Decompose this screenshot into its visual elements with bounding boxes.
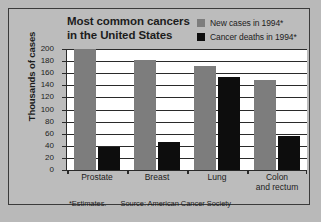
bar-group-prostate: Prostate xyxy=(67,49,127,170)
y-axis-tick-180: 180 xyxy=(41,57,54,65)
chart-title: Most common cancers in the United States xyxy=(67,15,207,42)
chart-header: Most common cancers in the United States… xyxy=(19,15,301,49)
y-axis-tick-160: 160 xyxy=(41,69,54,77)
chart-legend: New cases in 1994* Cancer deaths in 1994… xyxy=(197,16,317,44)
y-axis-tick-200: 200 xyxy=(41,45,54,53)
bar-group-breast: Breast xyxy=(127,49,187,170)
bar-breast-new-cases xyxy=(134,60,156,170)
legend-item-cancer-deaths: Cancer deaths in 1994* xyxy=(197,30,317,43)
x-axis-tickmark-end xyxy=(306,170,308,174)
bar-lung-new-cases xyxy=(194,66,216,170)
bar-colon-and-rectum-deaths xyxy=(278,136,300,170)
y-axis-tick-120: 120 xyxy=(41,93,54,101)
plot-wrapper: 200180160140120100806040200 ProstateBrea… xyxy=(58,49,306,179)
bar-prostate-new-cases xyxy=(74,49,96,170)
chart-title-line-1: Most common cancers xyxy=(67,15,207,29)
legend-swatch-cancer-deaths-icon xyxy=(197,33,205,41)
y-axis-tick-0: 0 xyxy=(50,166,54,174)
x-axis-label-colon-and-rectum: Colonand rectum xyxy=(242,173,312,192)
bar-group-lung: Lung xyxy=(187,49,247,170)
bar-colon-and-rectum-new-cases xyxy=(254,80,276,170)
chart-title-line-2: in the United States xyxy=(67,29,207,43)
y-axis-tick-140: 140 xyxy=(41,81,54,89)
plot-area: ProstateBreastLungColonand rectum xyxy=(66,49,307,171)
chart-frame: Most common cancers in the United States… xyxy=(8,8,310,205)
legend-label-cancer-deaths: Cancer deaths in 1994* xyxy=(210,32,297,42)
bar-group-colon-and-rectum: Colonand rectum xyxy=(247,49,307,170)
y-axis-tick-100: 100 xyxy=(41,106,54,114)
y-axis-tick-labels: 200180160140120100806040200 xyxy=(32,49,54,170)
bar-breast-deaths xyxy=(158,142,180,170)
y-axis-tick-80: 80 xyxy=(45,118,54,126)
legend-item-new-cases: New cases in 1994* xyxy=(197,16,317,29)
y-axis-tick-20: 20 xyxy=(45,154,54,162)
y-axis-tick-40: 40 xyxy=(45,142,54,150)
x-axis-label-line-2: and rectum xyxy=(242,183,312,193)
y-axis-tick-60: 60 xyxy=(45,130,54,138)
footnote-estimates: *Estimates. xyxy=(69,199,106,208)
footnote-source: Source: American Cancer Society xyxy=(120,199,231,208)
legend-swatch-new-cases-icon xyxy=(197,19,205,27)
bar-lung-deaths xyxy=(218,77,240,170)
bar-prostate-deaths xyxy=(98,147,120,170)
chart-footnote: *Estimates. Source: American Cancer Soci… xyxy=(69,199,309,208)
chart-figure: Most common cancers in the United States… xyxy=(0,0,321,222)
legend-label-new-cases: New cases in 1994* xyxy=(210,18,283,28)
